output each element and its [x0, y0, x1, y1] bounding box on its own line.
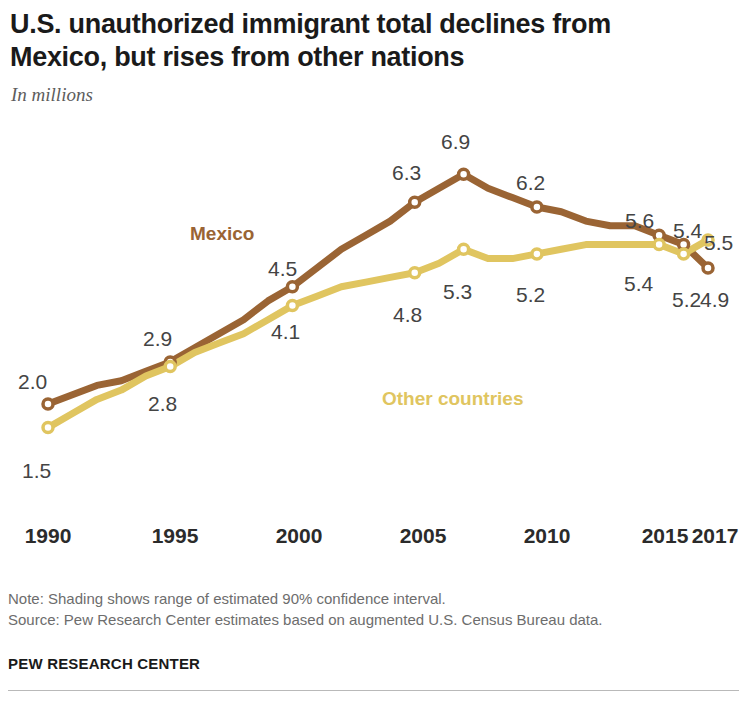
other-label-2015: 5.4 [624, 272, 653, 296]
other-label-2016: 5.2 [672, 288, 701, 312]
other-label-2007: 5.3 [443, 280, 472, 304]
data-point-marker [532, 202, 542, 212]
chart-notes: Note: Shading shows range of estimated 9… [8, 588, 738, 630]
x-tick-2010: 2010 [524, 524, 571, 548]
mexico-label-2000: 4.5 [268, 257, 297, 281]
pew-research-center-brand: PEW RESEARCH CENTER [8, 655, 200, 672]
chart-subtitle: In millions [11, 84, 93, 106]
data-point-marker [287, 282, 297, 292]
other-label-2000: 4.1 [271, 320, 300, 344]
x-tick-2005: 2005 [400, 524, 447, 548]
x-tick-1995: 1995 [152, 524, 199, 548]
mexico-label-2015: 5.6 [625, 209, 654, 233]
data-point-marker [703, 263, 713, 273]
source-line: Source: Pew Research Center estimates ba… [8, 609, 738, 630]
mexico-label-2010: 6.2 [516, 171, 545, 195]
chart-plot-area: Mexico Other countries 2.0 2.9 4.5 6.3 6… [0, 120, 747, 520]
mexico-label-2005: 6.3 [392, 161, 421, 185]
data-point-marker [459, 244, 469, 254]
line-chart-svg [0, 120, 747, 520]
data-point-marker [654, 240, 664, 250]
page-title: U.S. unauthorized immigrant total declin… [10, 8, 710, 74]
x-tick-1990: 1990 [25, 524, 72, 548]
data-point-marker [459, 169, 469, 179]
data-point-marker [410, 268, 420, 278]
data-point-marker [43, 399, 53, 409]
other-label-2010: 5.2 [516, 283, 545, 307]
mexico-series-label: Mexico [190, 223, 254, 245]
other-label-1990: 1.5 [22, 459, 51, 483]
other-countries-series-label: Other countries [382, 388, 523, 410]
x-tick-2017: 2017 [692, 524, 739, 548]
data-point-marker [679, 249, 689, 259]
chart-page: U.S. unauthorized immigrant total declin… [0, 0, 747, 702]
x-tick-2000: 2000 [276, 524, 323, 548]
other-label-1995: 2.8 [148, 392, 177, 416]
mexico-label-1995: 2.9 [143, 327, 172, 351]
note-line: Note: Shading shows range of estimated 9… [8, 588, 738, 609]
footer-divider [8, 690, 739, 691]
mexico-label-1990: 2.0 [18, 370, 47, 394]
data-point-marker [410, 197, 420, 207]
data-point-marker [43, 423, 53, 433]
data-point-marker [287, 301, 297, 311]
other-label-2005: 4.8 [393, 303, 422, 327]
mexico-line [48, 174, 708, 404]
data-point-marker [165, 362, 175, 372]
x-tick-2015: 2015 [642, 524, 689, 548]
mexico-label-2016: 5.4 [673, 219, 702, 243]
mexico-label-2007: 6.9 [441, 130, 470, 154]
x-axis: 1990 1995 2000 2005 2010 2015 2017 [0, 524, 747, 564]
other-label-2017: 5.5 [704, 231, 733, 255]
data-point-marker [532, 249, 542, 259]
mexico-label-2017: 4.9 [700, 288, 729, 312]
